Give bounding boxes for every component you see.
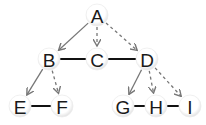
node-h: H xyxy=(145,95,167,118)
diagram-canvas: ABCDEFGHI xyxy=(0,0,206,125)
node-label: D xyxy=(140,50,154,71)
node-b: B xyxy=(38,48,60,71)
node-e: E xyxy=(9,95,31,118)
node-a: A xyxy=(86,4,108,27)
node-g: G xyxy=(112,95,134,118)
node-label: E xyxy=(14,97,27,118)
node-label: G xyxy=(116,97,131,118)
node-label: B xyxy=(43,50,56,71)
node-label: H xyxy=(149,97,163,118)
node-c: C xyxy=(86,48,108,71)
node-f: F xyxy=(51,95,73,118)
node-label: C xyxy=(90,50,104,71)
nodes-layer: ABCDEFGHI xyxy=(9,4,201,118)
node-label: F xyxy=(56,97,68,118)
node-label: A xyxy=(91,6,104,27)
edge-a-b xyxy=(59,23,89,50)
edge-b-f xyxy=(52,71,58,94)
edge-b-e xyxy=(27,69,43,95)
edge-d-g xyxy=(129,70,142,95)
node-d: D xyxy=(136,48,158,71)
edge-a-d xyxy=(106,23,137,50)
edge-d-h xyxy=(149,71,153,93)
tree-diagram: ABCDEFGHI xyxy=(0,0,206,125)
edge-d-i xyxy=(155,68,181,97)
node-label: I xyxy=(187,97,192,118)
node-i: I xyxy=(179,95,201,118)
